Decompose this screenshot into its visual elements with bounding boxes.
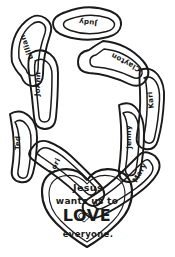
link-label-lori: Lori bbox=[47, 156, 63, 175]
chain-link-clayton bbox=[78, 41, 148, 86]
heart-message-line-2: wants us to bbox=[56, 196, 118, 206]
heart-message-line-4: everyone. bbox=[63, 229, 113, 239]
chain-of-names-illustration: Judy Lillian Clayton JoAnn Kari Jenny Te… bbox=[0, 0, 175, 257]
link-label-kari: Kari bbox=[145, 91, 156, 109]
heart-message-line-1: Jesus bbox=[72, 182, 103, 193]
link-label-lillian: Lillian bbox=[18, 34, 35, 61]
link-label-ted: Ted bbox=[13, 136, 23, 151]
link-label-jenny: Jenny bbox=[124, 125, 134, 150]
link-label-joann: JoAnn bbox=[33, 72, 43, 98]
heart-message-line-3: LOVE bbox=[63, 206, 112, 225]
link-label-judy: Judy bbox=[78, 17, 98, 28]
